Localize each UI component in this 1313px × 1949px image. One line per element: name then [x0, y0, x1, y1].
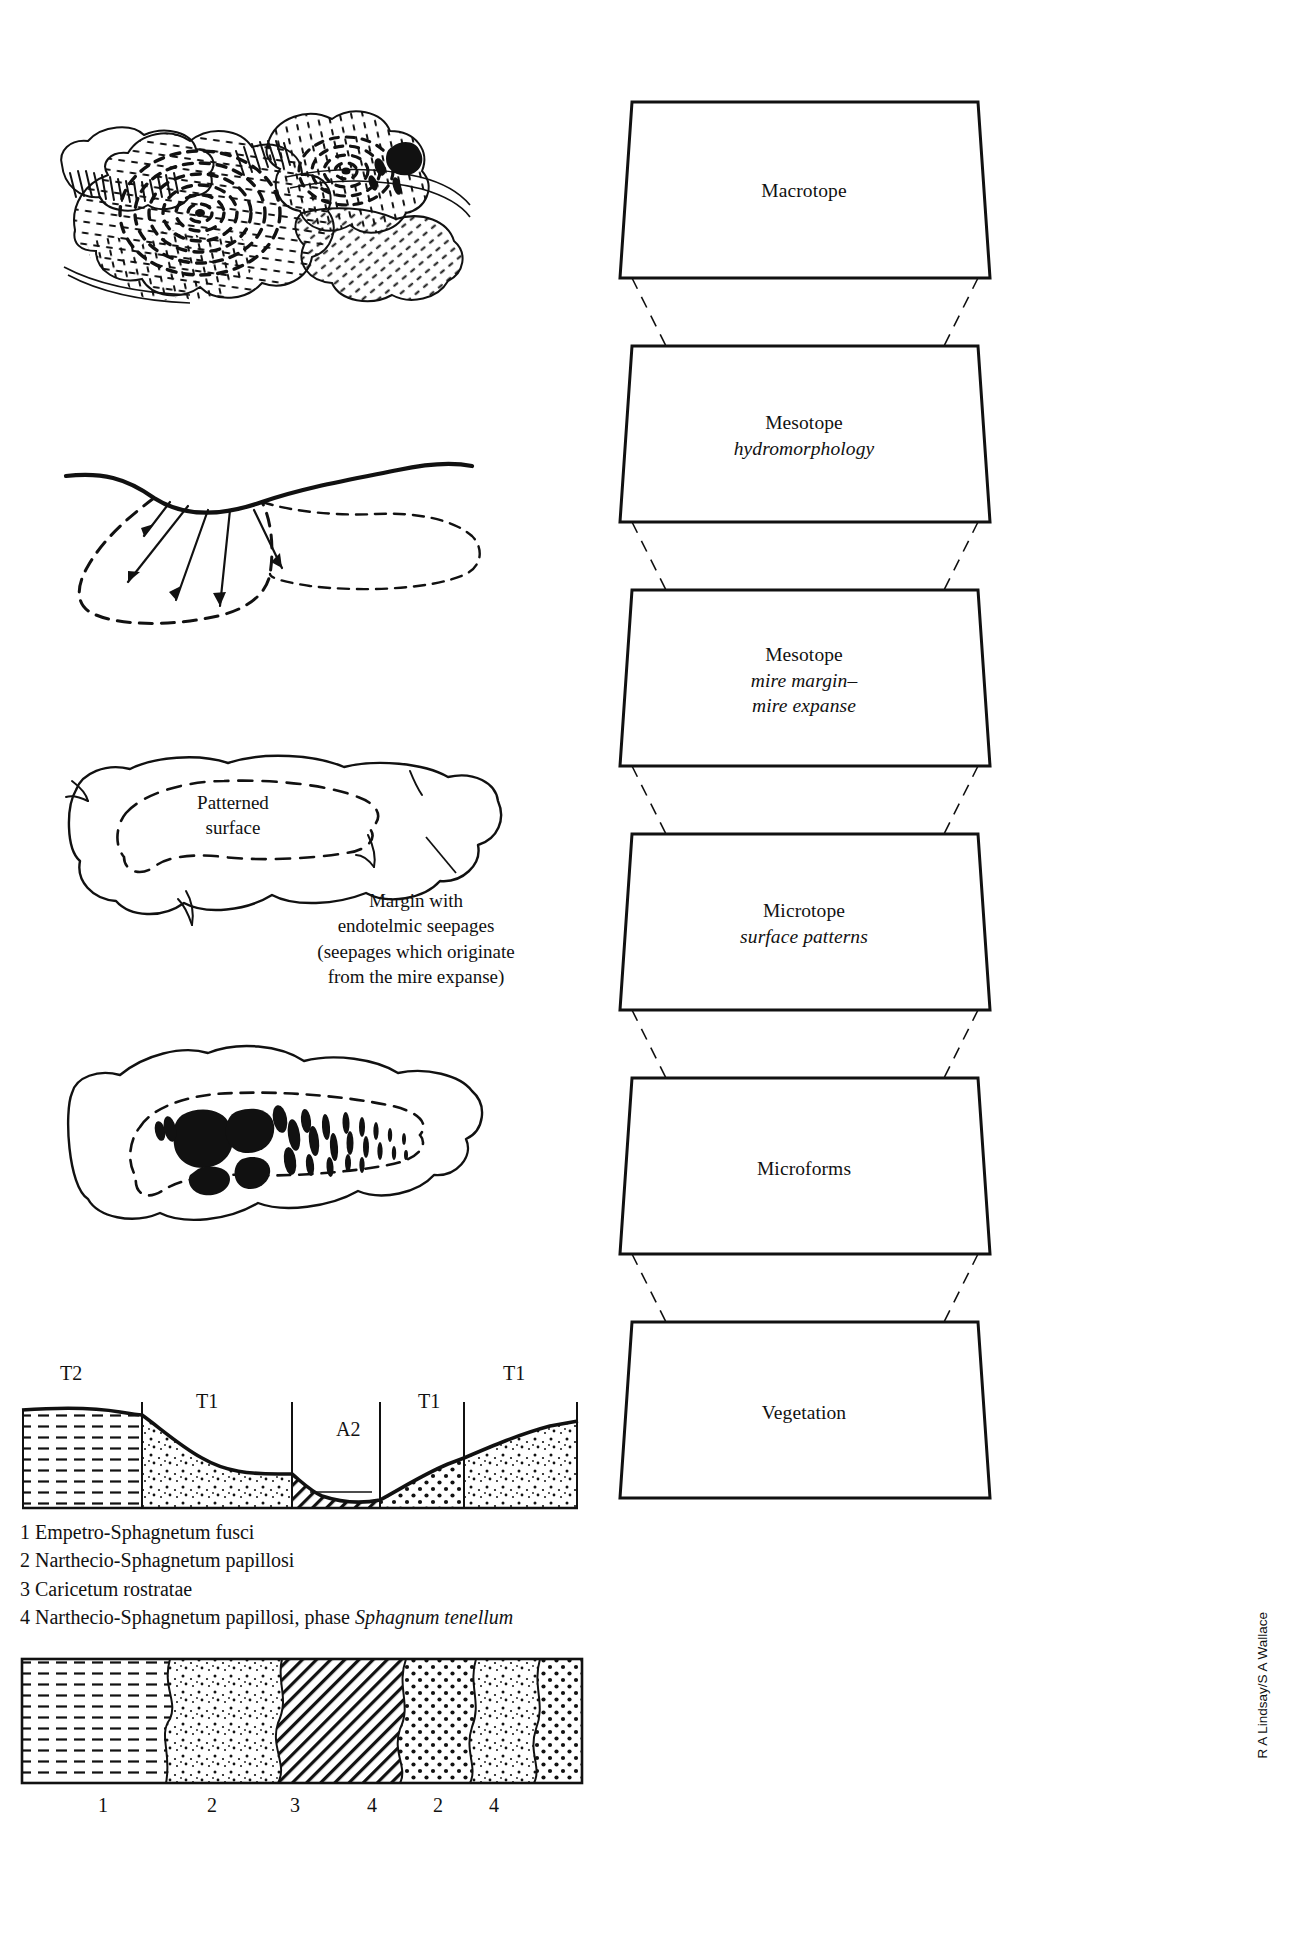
- patterned-surface-label-line2: surface: [206, 817, 261, 838]
- patterned-surface-label-line1: Patterned: [197, 792, 269, 813]
- cross-section-label-t1-right: T1: [503, 1362, 525, 1385]
- figure-vegetation-strip: [20, 1657, 585, 1785]
- strip-number: 1: [88, 1794, 118, 1817]
- margin-note-line1: Margin with: [369, 890, 463, 911]
- legend-item: 2 Narthecio-Sphagnetum papillosi: [20, 1546, 620, 1574]
- pyramid-level-subtitle: mire margin– mire expanse: [654, 668, 954, 719]
- pyramid-level-subtitle: hydromorphology: [654, 436, 954, 462]
- strip-number: 3: [280, 1794, 310, 1817]
- pyramid-level-vegetation: Vegetation: [654, 1400, 954, 1426]
- cross-section-label-a2: A2: [336, 1418, 360, 1441]
- legend-number: 3: [20, 1578, 30, 1600]
- legend-text: Narthecio-Sphagnetum papillosi: [35, 1549, 294, 1571]
- patterned-surface-label: Patterned surface: [148, 790, 318, 841]
- pyramid-level-subtitle: surface patterns: [654, 924, 954, 950]
- legend-text-italic: Sphagnum tenellum: [355, 1606, 513, 1628]
- legend-item: 1 Empetro-Sphagnetum fusci: [20, 1518, 620, 1546]
- legend-item: 4 Narthecio-Sphagnetum papillosi, phase …: [20, 1603, 620, 1631]
- strip-number: 2: [423, 1794, 453, 1817]
- pyramid-level-title: Microforms: [757, 1158, 851, 1179]
- legend-item: 3 Caricetum rostratae: [20, 1575, 620, 1603]
- cross-section-label-t1-a: T1: [196, 1390, 218, 1413]
- margin-note-line3: (seepages which originate: [317, 941, 514, 962]
- strip-number: 4: [479, 1794, 509, 1817]
- pyramid-level-microforms: Microforms: [654, 1156, 954, 1182]
- legend-number: 4: [20, 1606, 30, 1628]
- legend-number: 1: [20, 1521, 30, 1543]
- margin-note-line2: endotelmic seepages: [338, 915, 495, 936]
- margin-note-line4: from the mire expanse): [328, 966, 505, 987]
- margin-seepage-note: Margin with endotelmic seepages (seepage…: [288, 888, 544, 990]
- pyramid-level-microtope: Microtope surface patterns: [654, 898, 954, 949]
- legend-text: Empetro-Sphagnetum fusci: [35, 1521, 254, 1543]
- figure-cross-section: [20, 1388, 585, 1510]
- vegetation-legend: 1 Empetro-Sphagnetum fusci 2 Narthecio-S…: [20, 1518, 620, 1632]
- legend-text: Narthecio-Sphagnetum papillosi, phase: [35, 1606, 355, 1628]
- pyramid-level-title: Mesotope: [765, 644, 843, 665]
- pyramid-level-macrotope: Macrotope: [654, 178, 954, 204]
- pyramid-level-title: Mesotope: [765, 412, 843, 433]
- strip-number: 4: [357, 1794, 387, 1817]
- pyramid-level-title: Macrotope: [761, 180, 846, 201]
- pyramid-level-title: Microtope: [763, 900, 845, 921]
- strip-number: 2: [197, 1794, 227, 1817]
- figure-hydromorphology: [58, 440, 478, 630]
- pyramid-level-mesotope-hydromorphology: Mesotope hydromorphology: [654, 410, 954, 461]
- figure-microforms: [58, 1035, 488, 1260]
- figure-mire-complex: [40, 55, 470, 320]
- cross-section-label-t2-left: T2: [60, 1362, 82, 1385]
- cross-section-label-t1-b: T1: [418, 1390, 440, 1413]
- figure-page: Patterned surface Margin with endotelmic…: [0, 0, 1313, 1949]
- legend-number: 2: [20, 1549, 30, 1571]
- pyramid-level-title: Vegetation: [762, 1402, 846, 1423]
- legend-text: Caricetum rostratae: [35, 1578, 192, 1600]
- pyramid-level-mesotope-mire-margin: Mesotope mire margin– mire expanse: [654, 642, 954, 719]
- hierarchy-pyramid: Macrotope Mesotope hydromorphology Mesot…: [590, 80, 1060, 1500]
- credit-line: R A Lindsay/S A Wallace: [1255, 1612, 1270, 1759]
